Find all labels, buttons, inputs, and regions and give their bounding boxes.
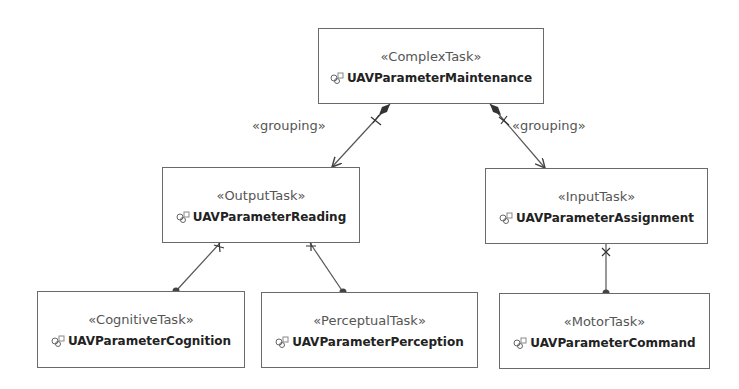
node-command[interactable]: «MotorTask» UAVParameterCommand xyxy=(499,293,710,369)
stereotype-label: «PerceptualTask» xyxy=(262,313,477,329)
edge-maintenance-reading[interactable] xyxy=(332,104,390,167)
stereotype-label: «CognitiveTask» xyxy=(38,312,244,328)
node-name: UAVParameterReading xyxy=(193,209,346,225)
node-assignment[interactable]: «InputTask» UAVParameterAssignment xyxy=(485,168,708,244)
stereotype-label: «MotorTask» xyxy=(500,314,709,330)
node-cognition[interactable]: «CognitiveTask» UAVParameterCognition xyxy=(37,291,245,368)
task-component-icon xyxy=(499,212,513,224)
edge-reading-cognition[interactable] xyxy=(173,241,225,295)
stereotype-label: «InputTask» xyxy=(486,189,707,205)
node-maintenance[interactable]: «ComplexTask» UAVParameterMaintenance xyxy=(318,28,544,104)
node-name: UAVParameterPerception xyxy=(292,334,464,350)
task-component-icon xyxy=(513,337,527,349)
node-perception[interactable]: «PerceptualTask» UAVParameterPerception xyxy=(261,292,478,368)
node-name: UAVParameterMaintenance xyxy=(347,70,532,86)
edge-reading-perception[interactable] xyxy=(306,241,347,296)
edge-maintenance-assignment[interactable] xyxy=(490,104,545,168)
stereotype-label: «OutputTask» xyxy=(163,188,359,204)
node-reading[interactable]: «OutputTask» UAVParameterReading xyxy=(162,167,360,243)
task-component-icon xyxy=(330,72,344,84)
task-component-icon xyxy=(51,335,65,347)
edge-assignment-command[interactable] xyxy=(602,244,610,297)
stereotype-label: «ComplexTask» xyxy=(319,49,543,65)
task-component-icon xyxy=(275,336,289,348)
node-name: UAVParameterCommand xyxy=(530,335,695,351)
node-name: UAVParameterAssignment xyxy=(516,210,694,226)
edge-label-grouping-left: «grouping» xyxy=(252,118,326,133)
task-component-icon xyxy=(176,211,190,223)
edge-label-grouping-right: «grouping» xyxy=(512,118,586,133)
node-name: UAVParameterCognition xyxy=(68,333,231,349)
